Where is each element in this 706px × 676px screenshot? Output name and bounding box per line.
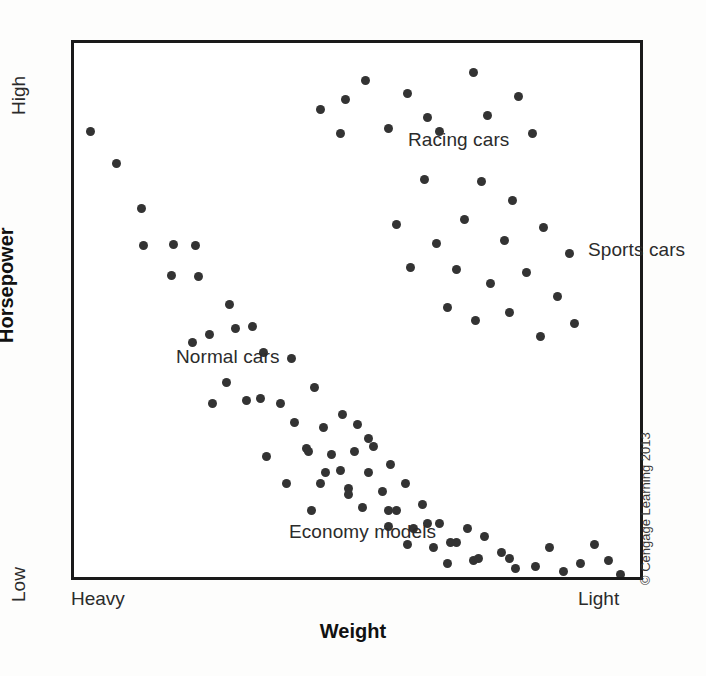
data-point — [401, 479, 410, 488]
data-point — [364, 468, 373, 477]
data-point — [336, 129, 345, 138]
y-axis-tick-high: High — [8, 76, 30, 115]
data-point — [290, 418, 299, 427]
annotation-sports-cars: Sports cars — [588, 239, 685, 261]
data-point — [429, 543, 438, 552]
data-point — [565, 249, 574, 258]
data-point — [205, 330, 214, 339]
data-point — [480, 532, 489, 541]
data-point — [452, 265, 461, 274]
data-point — [378, 487, 387, 496]
data-point — [418, 500, 427, 509]
data-point — [316, 105, 325, 114]
data-point — [508, 196, 517, 205]
y-axis-title: Horsepower — [0, 227, 18, 343]
data-point — [86, 127, 95, 136]
data-point — [463, 524, 472, 533]
scatter-plot-figure: Horsepower High Low Racing cars Sports c… — [0, 0, 706, 676]
data-point — [486, 279, 495, 288]
data-point — [403, 89, 412, 98]
data-point — [420, 175, 429, 184]
data-point — [443, 303, 452, 312]
copyright-credit: © Cengage Learning 2013 — [638, 432, 653, 585]
data-point — [358, 503, 367, 512]
annotation-normal-cars: Normal cars — [176, 346, 280, 368]
data-point — [474, 554, 483, 563]
data-point — [248, 322, 257, 331]
data-point — [287, 354, 296, 363]
data-point — [344, 490, 353, 499]
data-point — [471, 316, 480, 325]
data-point — [483, 111, 492, 120]
data-point — [369, 442, 378, 451]
data-points-layer — [74, 43, 640, 577]
data-point — [443, 559, 452, 568]
data-point — [460, 215, 469, 224]
data-point — [392, 506, 401, 515]
data-point — [139, 241, 148, 250]
data-point — [446, 538, 455, 547]
x-axis-title: Weight — [0, 620, 706, 643]
data-point — [361, 76, 370, 85]
data-point — [545, 543, 554, 552]
data-point — [341, 95, 350, 104]
data-point — [590, 540, 599, 549]
data-point — [384, 506, 393, 515]
data-point — [350, 447, 359, 456]
data-point — [327, 450, 336, 459]
data-point — [112, 159, 121, 168]
data-point — [500, 236, 509, 245]
data-point — [505, 554, 514, 563]
data-point — [384, 124, 393, 133]
data-point — [304, 447, 313, 456]
data-point — [191, 241, 200, 250]
data-point — [522, 268, 531, 277]
data-point — [539, 223, 548, 232]
data-point — [531, 562, 540, 571]
annotation-racing-cars: Racing cars — [408, 129, 509, 151]
data-point — [319, 423, 328, 432]
data-point — [406, 263, 415, 272]
data-point — [553, 292, 562, 301]
data-point — [276, 399, 285, 408]
data-point — [310, 383, 319, 392]
data-point — [559, 567, 568, 576]
data-point — [423, 113, 432, 122]
data-point — [477, 177, 486, 186]
y-axis-tick-low: Low — [8, 567, 30, 602]
data-point — [262, 452, 271, 461]
data-point — [364, 434, 373, 443]
data-point — [536, 332, 545, 341]
data-point — [194, 272, 203, 281]
data-point — [392, 220, 401, 229]
data-point — [511, 564, 520, 573]
plot-area: Racing cars Sports cars Normal cars Econ… — [71, 40, 643, 580]
data-point — [167, 271, 176, 280]
x-axis-tick-light: Light — [578, 588, 619, 610]
data-point — [432, 239, 441, 248]
data-point — [469, 68, 478, 77]
data-point — [528, 129, 537, 138]
data-point — [338, 410, 347, 419]
x-axis-tick-heavy: Heavy — [71, 588, 125, 610]
data-point — [307, 506, 316, 515]
data-point — [137, 204, 146, 213]
data-point — [316, 479, 325, 488]
data-point — [570, 319, 579, 328]
data-point — [576, 559, 585, 568]
data-point — [208, 399, 217, 408]
data-point — [353, 420, 362, 429]
data-point — [225, 300, 234, 309]
data-point — [505, 308, 514, 317]
data-point — [321, 468, 330, 477]
data-point — [514, 92, 523, 101]
data-point — [604, 556, 613, 565]
data-point — [222, 378, 231, 387]
data-point — [282, 479, 291, 488]
data-point — [242, 396, 251, 405]
data-point — [386, 460, 395, 469]
data-point — [169, 240, 178, 249]
data-point — [616, 570, 625, 577]
annotation-economy-models: Economy models — [289, 521, 436, 543]
data-point — [256, 394, 265, 403]
